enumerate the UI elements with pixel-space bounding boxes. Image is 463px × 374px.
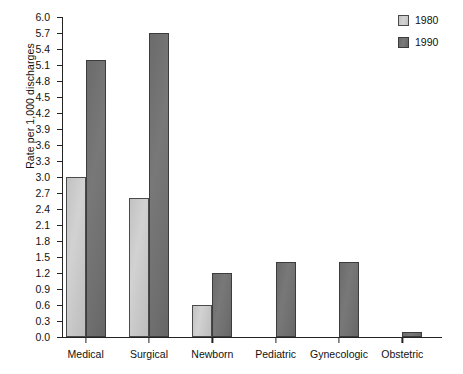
x-axis-tick <box>402 337 403 343</box>
legend-swatch-1990 <box>398 37 409 48</box>
y-axis-tick: 2.4 <box>57 209 62 210</box>
y-axis-tick-label: 3.6 <box>35 140 50 151</box>
plot-area: 0.00.30.60.91.21.51.82.12.42.73.03.33.63… <box>62 17 442 337</box>
y-axis-tick-label: 3.9 <box>35 124 50 135</box>
bar-pediatric-1990 <box>276 262 296 337</box>
x-axis-tick <box>85 337 86 343</box>
legend-label: 1980 <box>415 15 438 26</box>
y-axis-tick: 3.0 <box>57 177 62 178</box>
y-axis-tick: 5.7 <box>57 33 62 34</box>
bar-medical-1980 <box>66 177 86 337</box>
x-axis-tick <box>338 337 339 343</box>
y-axis-tick-label: 2.4 <box>35 204 50 215</box>
bar-medical-1990 <box>86 60 106 337</box>
y-axis-tick: 6.0 <box>57 17 62 18</box>
x-axis-tick-label: Obstetric <box>381 348 423 360</box>
x-axis-tick-label: Surgical <box>130 348 168 360</box>
y-axis-tick-label: 2.1 <box>35 220 50 231</box>
y-axis-tick-label: 1.8 <box>35 236 50 247</box>
bar-obstetric-1990 <box>402 332 422 337</box>
x-axis-line <box>62 337 442 338</box>
chart-legend: 19801990 <box>398 12 438 56</box>
y-axis-tick: 0.3 <box>57 321 62 322</box>
y-axis-tick-label: 5.1 <box>35 60 50 71</box>
y-axis-tick: 0.0 <box>57 337 62 338</box>
y-axis-tick: 3.3 <box>57 161 62 162</box>
legend-label: 1990 <box>415 37 438 48</box>
x-axis-tick <box>275 337 276 343</box>
x-axis-tick-label: Pediatric <box>255 348 296 360</box>
y-axis-tick: 2.7 <box>57 193 62 194</box>
bar-newborn-1990 <box>212 273 232 337</box>
y-axis-tick-label: 5.7 <box>35 28 50 39</box>
y-axis-tick-label: 0.9 <box>35 284 50 295</box>
y-axis-tick: 4.5 <box>57 97 62 98</box>
y-axis-tick-label: 0.0 <box>35 332 50 343</box>
y-axis-tick: 1.5 <box>57 257 62 258</box>
bar-surgical-1980 <box>129 198 149 337</box>
y-axis-tick-label: 1.2 <box>35 268 50 279</box>
x-axis-tick-label: Gynecologic <box>310 348 368 360</box>
y-axis-tick: 2.1 <box>57 225 62 226</box>
y-axis-tick-label: 4.5 <box>35 92 50 103</box>
x-axis-tick <box>212 337 213 343</box>
y-axis-tick-label: 5.4 <box>35 44 50 55</box>
bar-chart: Rate per 1,000 discharges 0.00.30.60.91.… <box>0 0 463 374</box>
x-axis-tick-label: Medical <box>68 348 104 360</box>
y-axis-tick-label: 6.0 <box>35 12 50 23</box>
y-axis-tick: 0.9 <box>57 289 62 290</box>
y-axis-tick: 1.8 <box>57 241 62 242</box>
y-axis-tick-label: 3.3 <box>35 156 50 167</box>
y-axis-title: Rate per 1,000 discharges <box>24 6 36 206</box>
x-axis-tick-label: Newborn <box>191 348 233 360</box>
y-axis-tick-label: 2.7 <box>35 188 50 199</box>
y-axis-tick-label: 1.5 <box>35 252 50 263</box>
y-axis-tick: 1.2 <box>57 273 62 274</box>
y-axis-tick: 3.6 <box>57 145 62 146</box>
y-axis-tick-label: 4.8 <box>35 76 50 87</box>
y-axis-line <box>62 17 63 337</box>
y-axis-tick-label: 0.3 <box>35 316 50 327</box>
y-axis-tick-label: 0.6 <box>35 300 50 311</box>
y-axis-tick: 3.9 <box>57 129 62 130</box>
legend-item-1980: 1980 <box>398 12 438 29</box>
bar-newborn-1980 <box>192 305 212 337</box>
legend-swatch-1980 <box>398 15 409 26</box>
bar-gynecologic-1990 <box>339 262 359 337</box>
x-axis-tick <box>148 337 149 343</box>
y-axis-tick: 5.1 <box>57 65 62 66</box>
y-axis-tick: 4.2 <box>57 113 62 114</box>
y-axis-tick-label: 4.2 <box>35 108 50 119</box>
y-axis-tick: 4.8 <box>57 81 62 82</box>
bar-surgical-1990 <box>149 33 169 337</box>
y-axis-tick: 0.6 <box>57 305 62 306</box>
legend-item-1990: 1990 <box>398 34 438 51</box>
y-axis-tick: 5.4 <box>57 49 62 50</box>
y-axis-tick-label: 3.0 <box>35 172 50 183</box>
